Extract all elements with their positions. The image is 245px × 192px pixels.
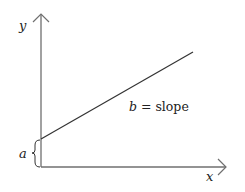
linear-graph-diagram: y x a b = slope (0, 0, 245, 192)
x-axis-label: x (206, 169, 214, 184)
slope-label: b = slope (129, 99, 189, 114)
regression-line (41, 52, 193, 139)
slope-variable: b (129, 99, 137, 114)
slope-equals-text: = slope (137, 99, 189, 114)
y-axis-label: y (18, 18, 27, 33)
intercept-label: a (19, 146, 27, 161)
intercept-brace (32, 140, 40, 167)
